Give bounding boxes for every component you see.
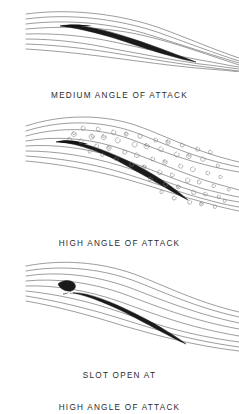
flow-field-medium: [0, 0, 239, 72]
caption-line: SLOT OPEN AT: [0, 371, 239, 382]
panel-medium-angle-of-attack: MEDIUM ANGLE OF ATTACK: [0, 0, 239, 92]
airfoil-slot: [70, 293, 186, 344]
streamlines-slot: [26, 262, 239, 351]
caption-slot: SLOT OPEN AT HIGH ANGLE OF ATTACK: [0, 350, 239, 414]
flow-field-high: [0, 100, 239, 220]
panel-high-angle-of-attack: HIGH ANGLE OF ATTACK: [0, 100, 239, 240]
flow-field-slot: [0, 248, 239, 353]
turbulent-eddies-high: [68, 126, 230, 208]
caption-line: HIGH ANGLE OF ATTACK: [0, 403, 239, 414]
panel-slot-open-high-angle: SLOT OPEN AT HIGH ANGLE OF ATTACK: [0, 248, 239, 379]
